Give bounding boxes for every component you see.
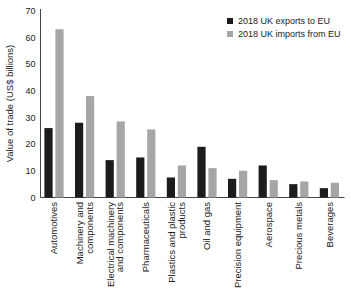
x-category-label-line: Precision equipment bbox=[232, 202, 243, 288]
y-tick-label-50: 50 bbox=[25, 59, 35, 69]
imports-bar-machinery-and-components bbox=[86, 96, 94, 197]
x-category-label-line: Aerospace bbox=[263, 202, 274, 247]
imports-bar-oil-and-gas bbox=[208, 168, 216, 197]
exports-bar-beverages bbox=[320, 188, 328, 197]
x-category-label-precision-equipment: Precision equipment bbox=[232, 202, 243, 288]
imports-bar-automotives bbox=[55, 29, 63, 197]
x-category-label-automotives: Automotives bbox=[48, 202, 59, 255]
y-tick-label-70: 70 bbox=[25, 6, 35, 16]
imports-series-swatch bbox=[227, 31, 233, 37]
legend-item-exports: 2018 UK exports to EU bbox=[227, 16, 341, 26]
exports-bar-precision-equipment bbox=[228, 179, 236, 198]
exports-bar-aerospace bbox=[259, 165, 267, 197]
x-category-label-oil-and-gas: Oil and gas bbox=[201, 202, 212, 250]
x-category-label-machinery-and-components: Machinery andcomponents bbox=[74, 202, 95, 265]
imports-bar-electrical-machinery-and-components bbox=[117, 121, 125, 197]
imports-bar-plastics-and-plastic-products bbox=[178, 165, 186, 197]
imports-bar-precision-equipment bbox=[239, 171, 247, 198]
x-category-label-line: and components bbox=[114, 202, 125, 272]
y-tick-label-20: 20 bbox=[25, 139, 35, 149]
x-category-label-line: components bbox=[84, 202, 95, 254]
y-axis-title: Value of trade (US$ billions) bbox=[3, 4, 16, 204]
chart-svg: 010203040506070AutomotivesMachinery andc… bbox=[0, 0, 351, 305]
exports-bar-electrical-machinery-and-components bbox=[106, 160, 114, 197]
x-category-label-line: Precious metals bbox=[293, 202, 304, 270]
trade-bar-chart-figure: Value of trade (US$ billions) 0102030405… bbox=[0, 0, 351, 305]
x-category-label-beverages: Beverages bbox=[324, 202, 335, 248]
y-tick-label-30: 30 bbox=[25, 113, 35, 123]
imports-bar-pharmaceuticals bbox=[147, 129, 155, 197]
y-tick-label-40: 40 bbox=[25, 86, 35, 96]
exports-bar-machinery-and-components bbox=[75, 123, 83, 198]
y-tick-label-60: 60 bbox=[25, 33, 35, 43]
x-category-label-electrical-machinery-and-components: Electrical machineryand components bbox=[105, 202, 126, 287]
x-category-label-line: products bbox=[176, 202, 187, 239]
imports-bar-aerospace bbox=[270, 180, 278, 197]
y-tick-label-10: 10 bbox=[25, 166, 35, 176]
x-category-label-precious-metals: Precious metals bbox=[293, 202, 304, 270]
legend-label-exports: 2018 UK exports to EU bbox=[238, 16, 330, 26]
x-category-label-aerospace: Aerospace bbox=[263, 202, 274, 247]
chart-legend: 2018 UK exports to EU 2018 UK imports fr… bbox=[227, 16, 341, 39]
x-category-label-line: Beverages bbox=[324, 202, 335, 248]
x-category-label-pharmaceuticals: Pharmaceuticals bbox=[140, 202, 151, 272]
exports-bar-pharmaceuticals bbox=[136, 157, 144, 197]
x-category-label-line: Oil and gas bbox=[201, 202, 212, 250]
imports-bar-precious-metals bbox=[300, 181, 308, 197]
imports-bar-beverages bbox=[331, 183, 339, 198]
exports-bar-oil-and-gas bbox=[197, 147, 205, 198]
legend-label-imports: 2018 UK imports from EU bbox=[238, 29, 341, 39]
x-category-label-line: Automotives bbox=[48, 202, 59, 255]
exports-series-swatch bbox=[227, 18, 233, 24]
exports-bar-precious-metals bbox=[289, 184, 297, 197]
exports-bar-plastics-and-plastic-products bbox=[167, 177, 175, 197]
x-category-label-line: Pharmaceuticals bbox=[140, 202, 151, 272]
legend-item-imports: 2018 UK imports from EU bbox=[227, 29, 341, 39]
y-tick-label-0: 0 bbox=[30, 193, 35, 203]
x-category-label-plastics-and-plastic-products: Plastics and plasticproducts bbox=[166, 202, 187, 283]
exports-bar-automotives bbox=[44, 128, 52, 197]
